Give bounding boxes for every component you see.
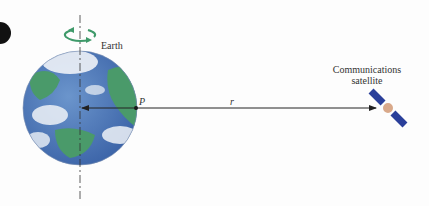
diagram: Earth P r Communications satellite [0,0,429,206]
satellite-label-line2: satellite [322,75,412,86]
diagram-graphics [0,0,429,206]
satellite-label-line1: Communications [322,64,412,75]
earth-label: Earth [101,40,123,51]
satellite-label: Communications satellite [322,64,412,86]
distance-r-label: r [230,96,234,107]
point-p-label: P [139,96,145,107]
corner-dot [0,22,11,44]
